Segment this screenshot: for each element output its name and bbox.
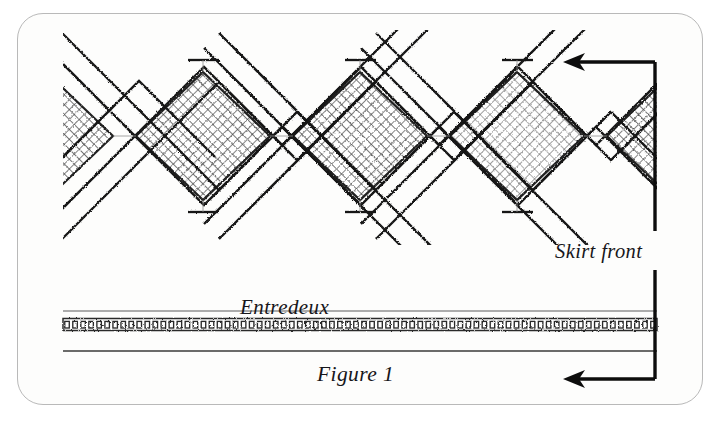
figure-illustration xyxy=(0,0,724,423)
entredeux-band xyxy=(63,319,657,331)
mesh-diamonds xyxy=(136,72,584,200)
figure-page: Skirt front Entredeux Figure 1 xyxy=(0,0,724,423)
annotation-skirt-front: Skirt front xyxy=(555,240,642,263)
bracket-arrowheads xyxy=(563,53,585,388)
annotation-entredeux: Entredeux xyxy=(240,295,329,320)
figure-caption: Figure 1 xyxy=(317,362,394,387)
